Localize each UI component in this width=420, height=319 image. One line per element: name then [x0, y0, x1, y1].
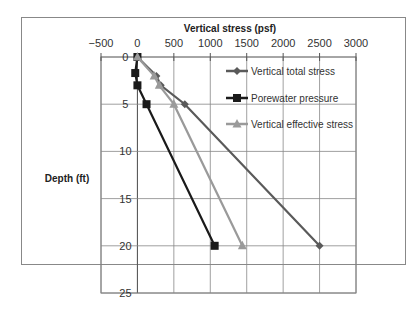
legend-label: Vertical effective stress	[251, 119, 353, 130]
y-axis-title: Depth (ft)	[45, 173, 89, 184]
legend-item: Vertical total stress	[226, 66, 335, 77]
y-tick-label: 15	[119, 193, 131, 205]
x-tick-label: 1000	[198, 37, 222, 49]
legend-label: Porewater pressure	[251, 93, 339, 104]
legend-item: Vertical effective stress	[226, 119, 353, 130]
x-axis-title: Vertical stress (psf)	[184, 23, 276, 34]
x-tick-label: 500	[165, 37, 183, 49]
x-tick-label: 0	[134, 37, 140, 49]
marker-square	[131, 69, 139, 77]
marker-diamond	[233, 67, 241, 75]
marker-triangle	[238, 241, 247, 250]
x-tick-label: 1500	[234, 37, 258, 49]
marker-square	[133, 81, 141, 89]
chart: Vertical stress (psf) Depth (ft) −500050…	[0, 0, 420, 319]
y-tick-label: 10	[119, 145, 131, 157]
x-tick-label: 2500	[307, 37, 331, 49]
legend-label: Vertical total stress	[251, 66, 335, 77]
y-tick-label: 0	[122, 51, 128, 63]
legend-item: Porewater pressure	[226, 93, 339, 104]
x-tick-label: 2000	[271, 37, 295, 49]
x-tick-label: 3000	[344, 37, 368, 49]
y-tick-label: 5	[122, 98, 128, 110]
y-tick-label: 20	[119, 240, 131, 252]
marker-square	[143, 100, 151, 108]
marker-square	[211, 242, 219, 250]
marker-square	[233, 94, 241, 102]
x-tick-label: −500	[89, 37, 114, 49]
y-tick-label: 25	[119, 287, 131, 299]
